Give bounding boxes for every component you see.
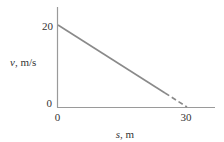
x-axis-unit: , m (120, 128, 135, 140)
y-axis-label: v, m/s (10, 56, 36, 68)
velocity-vs-position-chart: 20 0 0 30 v, m/s s, m (0, 0, 224, 142)
x-tick-label-0: 0 (55, 111, 61, 123)
data-line-solid (58, 25, 165, 93)
y-axis-unit: , m/s (15, 56, 36, 68)
y-tick-label-0: 0 (47, 97, 53, 109)
y-tick-label-20: 20 (42, 20, 54, 32)
x-axis-label: s, m (116, 128, 135, 140)
data-line-dashed (165, 93, 187, 107)
x-tick-label-30: 30 (181, 111, 193, 123)
